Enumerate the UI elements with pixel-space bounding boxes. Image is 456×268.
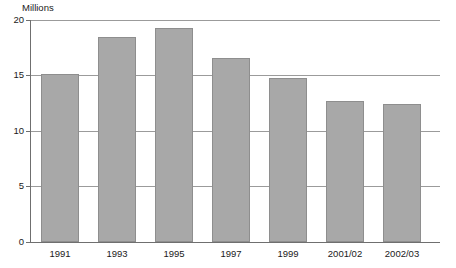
bar-1999 — [269, 78, 307, 242]
x-tick-label-1991: 1991 — [30, 248, 90, 259]
x-tick-label-2002-03: 2002/03 — [372, 248, 432, 259]
bar-2001-02 — [326, 101, 364, 242]
bar-2002-03 — [383, 104, 421, 242]
bar-1991 — [41, 74, 79, 242]
x-tick-label-1993: 1993 — [87, 248, 147, 259]
bar-1995 — [155, 28, 193, 242]
bar-1993 — [98, 37, 136, 242]
bar-1997 — [212, 58, 250, 242]
x-tick-label-1999: 1999 — [258, 248, 318, 259]
bars-layer: 199119931995199719992001/022002/03 — [0, 0, 456, 268]
x-tick-label-2001-02: 2001/02 — [315, 248, 375, 259]
x-tick-label-1995: 1995 — [144, 248, 204, 259]
bar-chart: Millions 20 15 10 5 0 199119931995199719… — [0, 0, 456, 268]
x-tick-label-1997: 1997 — [201, 248, 261, 259]
